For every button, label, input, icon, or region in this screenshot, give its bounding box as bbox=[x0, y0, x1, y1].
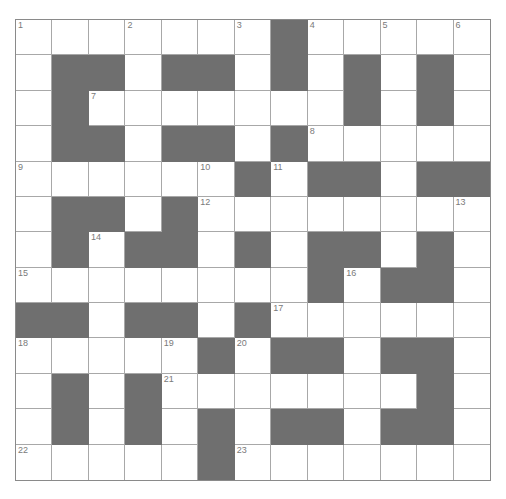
answer-cell[interactable] bbox=[235, 409, 271, 444]
answer-cell[interactable] bbox=[454, 374, 490, 409]
answer-cell[interactable] bbox=[454, 409, 490, 444]
answer-cell[interactable] bbox=[271, 374, 307, 409]
answer-cell[interactable]: 19 bbox=[162, 338, 198, 373]
answer-cell[interactable] bbox=[52, 338, 88, 373]
answer-cell[interactable]: 5 bbox=[381, 20, 417, 55]
answer-cell[interactable] bbox=[454, 445, 490, 480]
answer-cell[interactable] bbox=[52, 20, 88, 55]
answer-cell[interactable] bbox=[16, 91, 52, 126]
answer-cell[interactable] bbox=[308, 445, 344, 480]
answer-cell[interactable]: 17 bbox=[271, 303, 307, 338]
answer-cell[interactable] bbox=[125, 197, 161, 232]
answer-cell[interactable] bbox=[381, 374, 417, 409]
answer-cell[interactable] bbox=[454, 338, 490, 373]
answer-cell[interactable] bbox=[308, 91, 344, 126]
answer-cell[interactable] bbox=[417, 303, 453, 338]
answer-cell[interactable] bbox=[417, 126, 453, 161]
answer-cell[interactable] bbox=[16, 232, 52, 267]
answer-cell[interactable] bbox=[235, 91, 271, 126]
answer-cell[interactable]: 22 bbox=[16, 445, 52, 480]
answer-cell[interactable] bbox=[162, 91, 198, 126]
answer-cell[interactable] bbox=[454, 268, 490, 303]
answer-cell[interactable]: 8 bbox=[308, 126, 344, 161]
answer-cell[interactable] bbox=[162, 268, 198, 303]
answer-cell[interactable]: 20 bbox=[235, 338, 271, 373]
answer-cell[interactable] bbox=[381, 445, 417, 480]
answer-cell[interactable] bbox=[344, 338, 380, 373]
answer-cell[interactable] bbox=[16, 409, 52, 444]
answer-cell[interactable] bbox=[381, 91, 417, 126]
answer-cell[interactable] bbox=[198, 268, 234, 303]
answer-cell[interactable] bbox=[89, 303, 125, 338]
answer-cell[interactable] bbox=[454, 91, 490, 126]
answer-cell[interactable] bbox=[344, 197, 380, 232]
answer-cell[interactable] bbox=[89, 409, 125, 444]
answer-cell[interactable] bbox=[125, 445, 161, 480]
answer-cell[interactable] bbox=[235, 55, 271, 90]
answer-cell[interactable] bbox=[162, 409, 198, 444]
answer-cell[interactable] bbox=[89, 445, 125, 480]
answer-cell[interactable] bbox=[235, 374, 271, 409]
answer-cell[interactable] bbox=[381, 55, 417, 90]
answer-cell[interactable] bbox=[381, 232, 417, 267]
answer-cell[interactable] bbox=[125, 338, 161, 373]
answer-cell[interactable]: 3 bbox=[235, 20, 271, 55]
answer-cell[interactable] bbox=[381, 162, 417, 197]
answer-cell[interactable] bbox=[454, 55, 490, 90]
answer-cell[interactable]: 18 bbox=[16, 338, 52, 373]
answer-cell[interactable]: 6 bbox=[454, 20, 490, 55]
answer-cell[interactable] bbox=[198, 374, 234, 409]
answer-cell[interactable] bbox=[344, 303, 380, 338]
answer-cell[interactable]: 1 bbox=[16, 20, 52, 55]
answer-cell[interactable]: 23 bbox=[235, 445, 271, 480]
answer-cell[interactable]: 14 bbox=[89, 232, 125, 267]
answer-cell[interactable] bbox=[308, 55, 344, 90]
answer-cell[interactable] bbox=[198, 91, 234, 126]
answer-cell[interactable] bbox=[271, 232, 307, 267]
answer-cell[interactable]: 7 bbox=[89, 91, 125, 126]
answer-cell[interactable] bbox=[89, 374, 125, 409]
answer-cell[interactable] bbox=[198, 232, 234, 267]
answer-cell[interactable] bbox=[344, 20, 380, 55]
answer-cell[interactable]: 16 bbox=[344, 268, 380, 303]
answer-cell[interactable] bbox=[454, 232, 490, 267]
answer-cell[interactable] bbox=[89, 20, 125, 55]
answer-cell[interactable] bbox=[89, 162, 125, 197]
answer-cell[interactable] bbox=[381, 197, 417, 232]
answer-cell[interactable]: 15 bbox=[16, 268, 52, 303]
answer-cell[interactable] bbox=[89, 268, 125, 303]
answer-cell[interactable] bbox=[235, 268, 271, 303]
answer-cell[interactable]: 2 bbox=[125, 20, 161, 55]
answer-cell[interactable] bbox=[52, 445, 88, 480]
answer-cell[interactable]: 4 bbox=[308, 20, 344, 55]
answer-cell[interactable] bbox=[235, 126, 271, 161]
answer-cell[interactable] bbox=[125, 268, 161, 303]
answer-cell[interactable] bbox=[381, 126, 417, 161]
answer-cell[interactable] bbox=[308, 303, 344, 338]
answer-cell[interactable] bbox=[52, 162, 88, 197]
answer-cell[interactable] bbox=[271, 445, 307, 480]
answer-cell[interactable] bbox=[16, 55, 52, 90]
answer-cell[interactable] bbox=[16, 126, 52, 161]
answer-cell[interactable] bbox=[198, 20, 234, 55]
answer-cell[interactable] bbox=[125, 162, 161, 197]
answer-cell[interactable] bbox=[16, 197, 52, 232]
answer-cell[interactable] bbox=[344, 445, 380, 480]
answer-cell[interactable] bbox=[344, 409, 380, 444]
answer-cell[interactable] bbox=[271, 268, 307, 303]
answer-cell[interactable] bbox=[162, 162, 198, 197]
answer-cell[interactable] bbox=[454, 303, 490, 338]
answer-cell[interactable] bbox=[162, 20, 198, 55]
answer-cell[interactable] bbox=[89, 338, 125, 373]
answer-cell[interactable]: 12 bbox=[198, 197, 234, 232]
answer-cell[interactable] bbox=[271, 91, 307, 126]
answer-cell[interactable] bbox=[125, 55, 161, 90]
answer-cell[interactable] bbox=[16, 374, 52, 409]
answer-cell[interactable] bbox=[344, 126, 380, 161]
answer-cell[interactable] bbox=[125, 91, 161, 126]
answer-cell[interactable]: 10 bbox=[198, 162, 234, 197]
answer-cell[interactable] bbox=[381, 303, 417, 338]
answer-cell[interactable] bbox=[344, 374, 380, 409]
answer-cell[interactable]: 9 bbox=[16, 162, 52, 197]
answer-cell[interactable] bbox=[198, 303, 234, 338]
